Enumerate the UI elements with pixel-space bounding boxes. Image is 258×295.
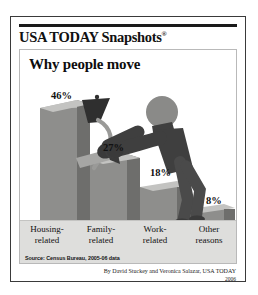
usa-today-snapshot-graphic: USA TODAY Snapshots® Why people move [10, 16, 246, 282]
value-label-family-related: 27% [103, 142, 124, 153]
masthead-rule [19, 24, 237, 27]
category-label-other-reasons: Other reasons [182, 224, 236, 245]
registered-mark-icon: ® [162, 30, 167, 38]
category-label-family-related: Family- related [74, 224, 128, 245]
credit-year: 2006 [104, 275, 236, 283]
masthead: USA TODAY Snapshots® [19, 24, 237, 45]
category-label-housing-related: Housing- related [20, 224, 74, 245]
value-label-work-related: 18% [150, 167, 171, 178]
value-label-housing-related: 46% [51, 90, 72, 101]
category-axis-band: Housing- related Family- related Work- r… [20, 220, 236, 263]
category-label-work-related: Work- related [128, 224, 182, 245]
source-note: Source: Census Bureau, 2005-06 data [25, 255, 120, 261]
masthead-title: USA TODAY Snapshots® [19, 30, 237, 45]
value-label-other-reasons: 8% [206, 195, 222, 206]
chart-panel: Why people move [19, 49, 237, 264]
credit-block: By David Stuckey and Veronica Salazar, U… [104, 267, 236, 283]
byline: By David Stuckey and Veronica Salazar, U… [104, 267, 236, 275]
masthead-brand: USA TODAY Snapshots [19, 29, 162, 45]
category-labels: Housing- related Family- related Work- r… [20, 224, 236, 245]
